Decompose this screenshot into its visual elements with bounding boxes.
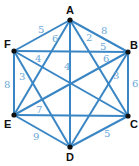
edge-weight-ed: 9: [33, 131, 39, 142]
edge-weight-fd: 3: [19, 71, 25, 82]
edge-weight-ae: 6: [52, 33, 58, 44]
vertex-a: [67, 17, 72, 22]
vertex-label-e: E: [4, 118, 11, 130]
vertex-e: [11, 112, 16, 117]
weighted-graph-diagram: 586254463683795 ABCDEF: [0, 0, 139, 166]
edge-weight-fc: 4: [35, 53, 41, 64]
edge-weight-ac: 2: [86, 32, 92, 43]
edge-weight-be: 6: [103, 53, 109, 64]
vertex-f: [11, 48, 16, 53]
edge-ec: [14, 115, 128, 116]
vertex-label-a: A: [66, 4, 74, 16]
edge-weight-ec: 7: [36, 104, 42, 115]
edge-weight-bd: 3: [113, 70, 119, 81]
edge-weight-dc: 5: [104, 128, 110, 139]
vertex-label-d: D: [66, 151, 74, 163]
edge-weight-af: 5: [38, 24, 44, 35]
edge-weight-bc: 6: [132, 78, 138, 89]
vertex-d: [67, 144, 72, 149]
edge-weight-fb: 5: [100, 41, 106, 52]
vertex-label-f: F: [4, 38, 11, 50]
graph-edges: [14, 20, 128, 147]
edge-weight-ab: 8: [101, 25, 107, 36]
vertex-label-b: B: [130, 39, 138, 51]
vertex-label-c: C: [130, 118, 138, 130]
edge-weight-fe: 8: [4, 79, 10, 90]
edge-weight-ad: 4: [64, 61, 70, 72]
